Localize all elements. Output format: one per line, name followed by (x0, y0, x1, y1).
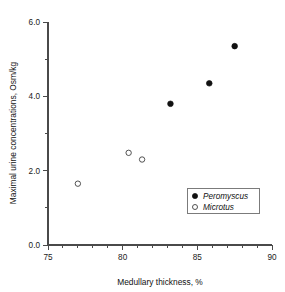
y-tick-label: 4.0 (29, 92, 41, 101)
x-tick-label: 90 (267, 253, 277, 262)
data-point-peromyscus (232, 43, 238, 49)
data-point-microtus (126, 150, 131, 155)
data-point-peromyscus (206, 81, 212, 87)
legend-marker-microtus (193, 205, 198, 210)
legend-label-peromyscus: Peromyscus (203, 192, 248, 201)
legend-marker-peromyscus (192, 193, 197, 198)
x-tick-label: 85 (193, 253, 203, 262)
x-axis-ticks (48, 245, 272, 250)
legend-label-microtus: Microtus (203, 203, 234, 212)
y-tick-label: 2.0 (29, 167, 41, 176)
scatter-plot-figure: 75808590 0.02.04.06.0 PeromyscusMicrotus… (0, 0, 285, 292)
y-tick-label: 0.0 (29, 241, 41, 250)
y-tick-label: 6.0 (29, 18, 41, 27)
legend: PeromyscusMicrotus (187, 188, 259, 213)
x-tick-label: 75 (43, 253, 53, 262)
y-axis-title: Maximal urine concentrations, Osm/kg (8, 61, 18, 204)
data-point-peromyscus (168, 101, 174, 107)
data-point-microtus (75, 181, 80, 186)
y-axis-tick-labels: 0.02.04.06.0 (29, 18, 41, 250)
data-point-microtus (139, 157, 144, 162)
data-points (75, 43, 237, 186)
plot-canvas: 75808590 0.02.04.06.0 PeromyscusMicrotus… (0, 0, 285, 292)
y-axis-ticks (43, 22, 48, 245)
x-axis-tick-labels: 75808590 (43, 253, 277, 262)
x-tick-label: 80 (118, 253, 128, 262)
x-axis-title: Medullary thickness, % (117, 277, 203, 287)
